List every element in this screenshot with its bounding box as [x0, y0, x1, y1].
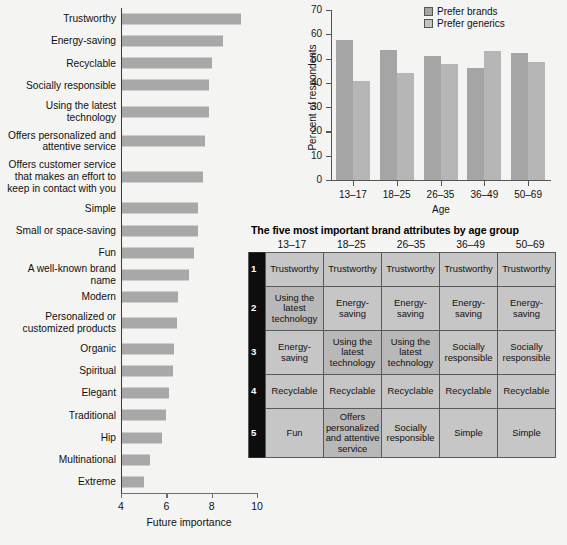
table-cell: Trustworthy: [382, 253, 440, 287]
vbar-y-tick-label: 10: [288, 150, 322, 161]
hbar-row-track: [121, 52, 278, 74]
table-cell: Socially responsible: [498, 331, 556, 375]
hbar-row: Energy-saving: [0, 30, 278, 52]
brand-attributes-table-panel: The five most important brand attributes…: [248, 224, 560, 458]
vbar-x-axis-title: Age: [331, 204, 551, 215]
hbar-row-track: [121, 30, 278, 52]
hbar-row-track: [121, 126, 278, 156]
hbar-bar: [121, 106, 209, 117]
hbar-row-track: [121, 471, 278, 493]
hbar-bar: [121, 171, 203, 182]
table-cell: Trustworthy: [440, 253, 498, 287]
hbar-bar: [121, 291, 178, 302]
table-cell: Energy-saving: [498, 287, 556, 331]
hbar-row-label: Trustworthy: [0, 13, 121, 25]
table-row: 2Using the latest technologyEnergy-savin…: [249, 287, 556, 331]
vbar-group: [336, 10, 370, 180]
hbar-bar: [121, 80, 209, 91]
hbar-row-label: Offers customer service that makes an ef…: [0, 159, 121, 194]
hbar-row: Recyclable: [0, 52, 278, 74]
table-rank-cell: 5: [249, 409, 266, 458]
vbar-group: [424, 10, 458, 180]
vbar-y-tick-label: 30: [288, 101, 322, 112]
hbar-row: A well-known brand name: [0, 264, 278, 286]
hbar-row: Small or space-saving: [0, 219, 278, 241]
hbar-row-label: Socially responsible: [0, 80, 121, 92]
hbar-bar: [121, 269, 189, 280]
table-column-headers: 13–1718–2526–3536–4950–69: [262, 239, 560, 250]
vbar-bar-prefer-brands: [336, 40, 353, 180]
hbar-bar: [121, 14, 241, 25]
table-column-header: 26–35: [381, 239, 441, 250]
hbar-row-label: Simple: [0, 203, 121, 215]
table-rank-cell: 4: [249, 375, 266, 409]
vbar-bar-prefer-generics: [441, 64, 458, 180]
hbar-bar: [121, 432, 162, 443]
brand-preference-bar-chart: Per cent of respondents 010203040506070 …: [288, 2, 567, 220]
hbar-row: Multinational: [0, 449, 278, 471]
hbar-row: Extreme: [0, 471, 278, 493]
table-cell: Energy-saving: [382, 287, 440, 331]
vbar-x-tick-label: 50–69: [514, 189, 542, 200]
hbar-row: Modern: [0, 286, 278, 308]
vbar-group: [467, 10, 501, 180]
vbar-y-tick-label: 0: [288, 174, 322, 185]
vbar-bar-prefer-brands: [467, 68, 484, 180]
hbar-bar: [121, 476, 144, 487]
hbar-row: Fun: [0, 242, 278, 264]
hbar-row-track: [121, 8, 278, 30]
legend-swatch-icon: [424, 19, 433, 28]
table-cell: Trustworthy: [498, 253, 556, 287]
hbar-row-label: Elegant: [0, 387, 121, 399]
table-rank-cell: 2: [249, 287, 266, 331]
hbar-row-label: Offers personalized and attentive servic…: [0, 130, 121, 153]
vbar-bar-prefer-brands: [424, 56, 441, 180]
vbar-x-tick-label: 13–17: [339, 189, 367, 200]
hbar-row-label: Multinational: [0, 454, 121, 466]
table-column-header: 18–25: [322, 239, 382, 250]
hbar-category-axis: [121, 8, 122, 493]
hbar-tick: [212, 493, 213, 498]
table-row: 4RecyclableRecyclableRecyclableRecyclabl…: [249, 375, 556, 409]
table-cell: Offers personalized and attentive servic…: [324, 409, 382, 458]
hbar-row: Hip: [0, 426, 278, 448]
hbar-row: Using the latest technology: [0, 97, 278, 127]
vbar-x-tick: [441, 181, 442, 186]
vbar-y-tick-label: 70: [288, 4, 322, 15]
hbar-row-label: Hip: [0, 432, 121, 444]
vbar-legend: Prefer brandsPrefer generics: [424, 6, 505, 30]
vbar-bar-prefer-generics: [528, 62, 545, 180]
vbar-plot-area: [331, 10, 550, 180]
legend-item: Prefer brands: [424, 6, 505, 17]
vbar-group: [380, 10, 414, 180]
table-cell: Simple: [498, 409, 556, 458]
vbar-y-tick-label: 20: [288, 125, 322, 136]
legend-label: Prefer generics: [437, 18, 505, 29]
vbar-bar-prefer-generics: [353, 81, 370, 180]
legend-label: Prefer brands: [437, 6, 498, 17]
hbar-row: Simple: [0, 197, 278, 219]
hbar-value-axis: [121, 493, 257, 494]
table-row: 1TrustworthyTrustworthyTrustworthyTrustw…: [249, 253, 556, 287]
vbar-x-tick-label: 26–35: [427, 189, 455, 200]
table-cell: Recyclable: [324, 375, 382, 409]
table-cell: Energy-saving: [266, 331, 324, 375]
vbar-group: [511, 10, 545, 180]
hbar-tick: [257, 493, 258, 498]
vbar-x-tick-label: 18–25: [383, 189, 411, 200]
table-cell: Fun: [266, 409, 324, 458]
hbar-bar: [121, 454, 150, 465]
hbar-row: Offers personalized and attentive servic…: [0, 126, 278, 156]
table-cell: Simple: [440, 409, 498, 458]
hbar-tick-label: 10: [251, 500, 263, 512]
hbar-tick-label: 4: [118, 500, 124, 512]
hbar-row: Socially responsible: [0, 74, 278, 96]
table-column-header: 36–49: [441, 239, 501, 250]
table-cell: Using the latest technology: [266, 287, 324, 331]
table-column-header: 50–69: [500, 239, 560, 250]
hbar-row-label: A well-known brand name: [0, 263, 121, 286]
table-cell: Socially responsible: [382, 409, 440, 458]
hbar-row: Traditional: [0, 404, 278, 426]
hbar-row-track: [121, 74, 278, 96]
hbar-bar: [121, 136, 205, 147]
